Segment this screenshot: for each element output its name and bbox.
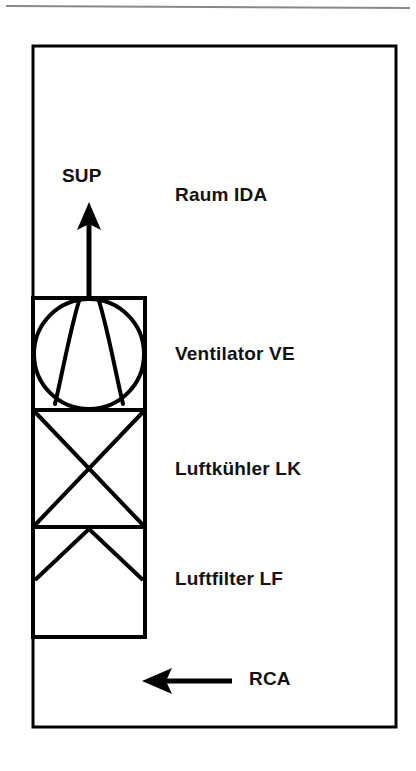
supply-flow-label: SUP (62, 166, 102, 185)
filter-component (33, 527, 145, 637)
recirculation-arrow-left (142, 668, 232, 694)
filter-chevron (35, 529, 143, 580)
hvac-schematic-diagram: SUP Raum IDA Ventilator VE Luftkühler LK… (0, 0, 416, 771)
supply-arrow-up (77, 202, 101, 296)
fan-blade-left (55, 301, 79, 404)
fan-circle (34, 299, 144, 409)
diagram-canvas (0, 0, 416, 771)
filter-label: Luftfilter LF (175, 569, 283, 588)
filter-box (33, 527, 145, 637)
cooler-label: Luftkühler LK (175, 459, 301, 478)
fan-label: Ventilator VE (175, 344, 295, 363)
fan-component (33, 298, 145, 410)
cooler-component (33, 410, 145, 527)
room-label: Raum IDA (175, 185, 267, 204)
room-boundary (33, 46, 396, 727)
page-rule (6, 6, 410, 8)
recirculation-flow-label: RCA (249, 669, 291, 688)
fan-blade-right (99, 301, 123, 404)
